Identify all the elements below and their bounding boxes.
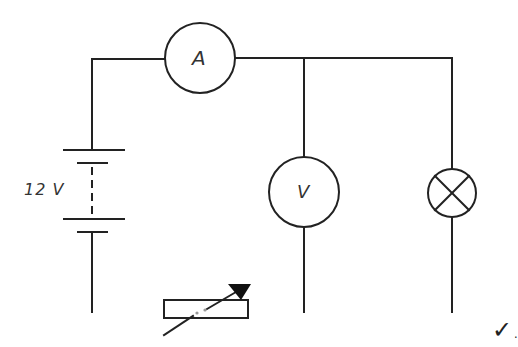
rheostat-arrowhead: [228, 284, 251, 300]
lamp-symbol: [428, 169, 476, 217]
top-wire: [92, 58, 452, 59]
battery-symbol: [64, 150, 124, 312]
rheostat-symbol: [164, 292, 248, 335]
circuit-svg: [0, 0, 518, 347]
checkmark-icon: ✓.: [492, 316, 518, 344]
battery-voltage-label: 12 V: [24, 180, 64, 199]
lamp-branch: [428, 58, 476, 312]
ammeter-label: A: [192, 46, 206, 70]
circuit-diagram: 12 V A V ✓.: [0, 0, 518, 347]
voltmeter-label: V: [297, 181, 309, 202]
